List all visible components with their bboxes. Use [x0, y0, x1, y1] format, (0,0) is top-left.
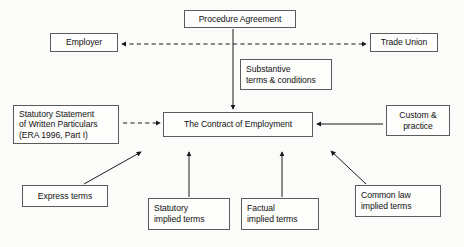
node-procedure-agreement[interactable]: Procedure Agreement: [184, 10, 296, 28]
node-custom-practice-line-2: practice: [403, 121, 433, 132]
node-custom-and-practice[interactable]: Custom & practice: [386, 105, 450, 136]
node-procedure-agreement-line-1: Procedure Agreement: [199, 14, 282, 25]
node-common-law-line-2: implied terms: [361, 201, 411, 212]
node-common-law-implied-terms[interactable]: Common law implied terms: [355, 185, 441, 217]
node-trade-union-line-1: Trade Union: [381, 37, 427, 48]
node-common-law-line-1: Common law: [361, 190, 411, 201]
node-factual-implied-terms[interactable]: Factual implied terms: [241, 198, 319, 230]
node-factual-implied-line-1: Factual: [247, 203, 275, 214]
edge-express-terms-to-contract: [84, 152, 141, 184]
node-contract-line-1: The Contract of Employment: [184, 119, 292, 130]
node-statutory-statement-line-2: of Written Particulars: [19, 119, 98, 130]
node-statutory-implied-line-1: Statutory: [154, 203, 188, 214]
node-statutory-statement-of-written-particulars[interactable]: Statutory Statement of Written Particula…: [13, 105, 119, 144]
node-employer[interactable]: Employer: [50, 33, 118, 52]
node-express-terms[interactable]: Express terms: [22, 185, 108, 207]
node-substantive-line-1: Substantive: [246, 64, 290, 75]
node-statutory-implied-terms[interactable]: Statutory implied terms: [148, 198, 230, 230]
contract-of-employment-diagram: Procedure Agreement Employer Trade Union…: [0, 0, 464, 247]
node-factual-implied-line-2: implied terms: [247, 214, 297, 225]
node-trade-union[interactable]: Trade Union: [370, 33, 438, 52]
node-statutory-implied-line-2: implied terms: [154, 214, 204, 225]
node-custom-practice-line-1: Custom &: [399, 110, 436, 121]
node-employer-line-1: Employer: [66, 37, 102, 48]
node-substantive-line-2: terms & conditions: [246, 75, 316, 86]
node-express-terms-line-1: Express terms: [38, 191, 92, 202]
node-statutory-statement-line-1: Statutory Statement: [19, 109, 94, 120]
edge-common-law-implied-to-contract: [331, 151, 366, 184]
node-statutory-statement-line-3: (ERA 1996, Part I): [19, 130, 88, 141]
node-substantive-terms-and-conditions[interactable]: Substantive terms & conditions: [240, 59, 332, 90]
node-contract-of-employment[interactable]: The Contract of Employment: [163, 112, 313, 137]
